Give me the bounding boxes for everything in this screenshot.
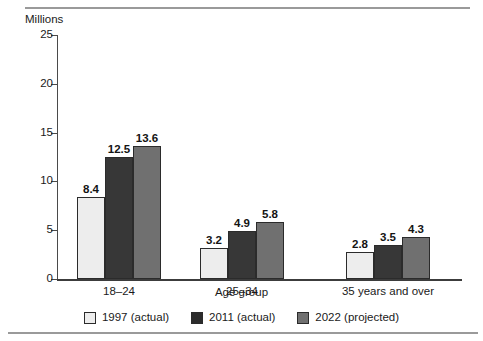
y-axis-tick-label: 5 [29,223,53,236]
legend-label: 1997 (actual) [102,311,169,324]
bar-value-label: 3.5 [380,231,396,244]
y-axis-line [57,35,58,279]
legend-label: 2022 (projected) [315,311,399,324]
bar: 3.5 [374,245,402,279]
bottom-divider-rule [8,332,478,334]
bar: 8.4 [77,197,105,279]
bar: 3.2 [200,248,228,279]
bar-value-label: 13.6 [136,132,158,145]
y-axis-tick-label: 20 [29,77,53,90]
y-axis-tick-label: 15 [29,126,53,139]
bar-value-label: 5.8 [262,208,278,221]
chart-legend: 1997 (actual)2011 (actual)2022 (projecte… [0,311,483,324]
bar: 2.8 [346,252,374,279]
bar-value-label: 4.3 [408,223,424,236]
plot-area: 0510152025 8.412.513.63.24.95.82.83.54.3… [57,35,462,279]
x-axis-title: Age group [0,286,483,299]
x-axis-baseline [57,279,462,281]
bar-value-label: 12.5 [108,143,130,156]
bar-value-label: 3.2 [206,234,222,247]
bar-value-label: 8.4 [83,183,99,196]
y-axis-tick-label: 25 [29,28,53,41]
legend-swatch [297,312,309,324]
legend-swatch [84,312,96,324]
legend-item: 1997 (actual) [84,311,169,324]
bar: 4.3 [402,237,430,279]
bar-chart-figure: Millions 0510152025 8.412.513.63.24.95.8… [0,0,483,341]
legend-item: 2022 (projected) [297,311,399,324]
bar: 5.8 [256,222,284,279]
bar: 13.6 [133,146,161,279]
bar: 4.9 [228,231,256,279]
bar: 12.5 [105,157,133,279]
bar-value-label: 2.8 [352,238,368,251]
legend-label: 2011 (actual) [209,311,275,324]
bar-value-label: 4.9 [234,217,250,230]
legend-swatch [191,312,203,324]
y-axis-title: Millions [25,13,63,26]
y-axis-tick-label: 0 [29,272,53,285]
top-divider-rule [25,7,470,9]
y-axis-tick-label: 10 [29,174,53,187]
legend-item: 2011 (actual) [191,311,275,324]
